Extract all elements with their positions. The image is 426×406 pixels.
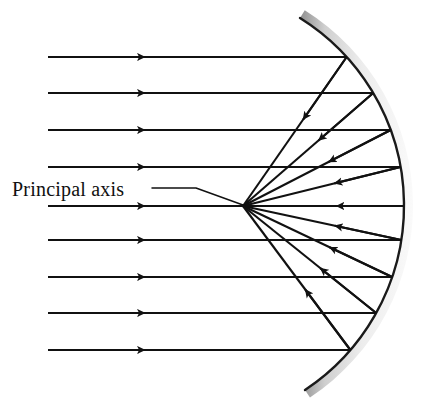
reflected-ray-arrowhead [319,93,374,140]
mirror-reflective-edge [300,18,404,390]
concave-mirror [300,10,413,397]
reflected-ray-arrowhead [334,167,400,183]
incoming-parallel-rays [48,57,404,350]
concave-mirror-figure: Principal axis [0,0,426,406]
principal-axis-label: Principal axis [12,178,124,201]
reflected-ray-arrowhead [303,57,347,120]
reflected-ray-arrowhead [335,226,401,240]
reflected-ray-arrowhead [330,247,393,277]
principal-axis-leader-line [152,188,243,205]
leader-polyline [152,188,243,205]
ray-diagram-canvas: Principal axis [0,0,426,406]
reflected-ray-arrowhead [320,268,376,313]
reflected-ray-arrowhead [305,290,350,350]
reflected-ray-arrowhead [329,130,391,162]
